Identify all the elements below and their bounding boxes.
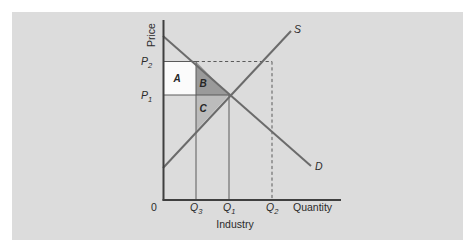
quantity-label-q2-base: Q bbox=[266, 201, 274, 213]
supply-demand-chart: Price Quantity Industry 0 P2 P1 Q3 Q1 Q2… bbox=[0, 0, 475, 252]
quantity-label-q1-sub: 1 bbox=[231, 207, 235, 216]
quantity-label-q3: Q3 bbox=[190, 201, 203, 216]
figure-screenshot: Price Quantity Industry 0 P2 P1 Q3 Q1 Q2… bbox=[0, 0, 475, 252]
region-a-label: A bbox=[172, 73, 180, 84]
demand-curve-label: D bbox=[315, 160, 323, 172]
price-label-p2-sub: 2 bbox=[147, 61, 153, 70]
region-b-label: B bbox=[199, 78, 206, 89]
price-label-p2: P2 bbox=[141, 55, 153, 70]
origin-label: 0 bbox=[151, 201, 157, 213]
price-label-p1: P1 bbox=[141, 89, 152, 104]
quantity-label-q2: Q2 bbox=[266, 201, 279, 216]
supply-curve-label: S bbox=[294, 23, 301, 35]
price-label-p1-base: P bbox=[141, 89, 148, 101]
demand-curve bbox=[163, 36, 311, 166]
x-axis-label: Quantity bbox=[293, 201, 333, 213]
quantity-label-q1: Q1 bbox=[223, 201, 235, 216]
quantity-label-q2-sub: 2 bbox=[273, 207, 279, 216]
region-c-label: C bbox=[199, 103, 207, 114]
quantity-label-q3-base: Q bbox=[190, 201, 198, 213]
price-label-p2-base: P bbox=[141, 55, 148, 67]
y-axis-label: Price bbox=[145, 23, 157, 47]
quantity-label-q1-base: Q bbox=[223, 201, 231, 213]
quantity-label-q3-sub: 3 bbox=[198, 207, 203, 216]
price-label-p1-sub: 1 bbox=[148, 95, 152, 104]
figure-caption: Industry bbox=[216, 218, 254, 230]
